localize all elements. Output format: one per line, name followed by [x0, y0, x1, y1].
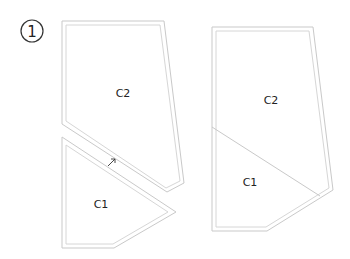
c1-region-label: C1 — [243, 176, 258, 189]
c2-label: C2 — [116, 87, 131, 100]
step-number: 1 — [27, 23, 37, 41]
combined-inner-outline — [216, 31, 329, 227]
c1-label: C1 — [94, 198, 109, 211]
arrow-up-right-icon — [108, 159, 115, 166]
left-piece-c1: C1 — [62, 137, 176, 248]
right-figure-combined: C2 C1 — [212, 27, 333, 231]
dividing-line — [212, 127, 320, 196]
combined-outer-outline — [212, 27, 333, 231]
left-piece-c2: C2 — [62, 21, 184, 192]
c2-outer-outline — [62, 21, 184, 192]
c2-region-label: C2 — [264, 94, 279, 107]
diagram-canvas: 1 C2 C1 C2 C1 — [0, 0, 350, 259]
step-badge: 1 — [21, 20, 43, 42]
